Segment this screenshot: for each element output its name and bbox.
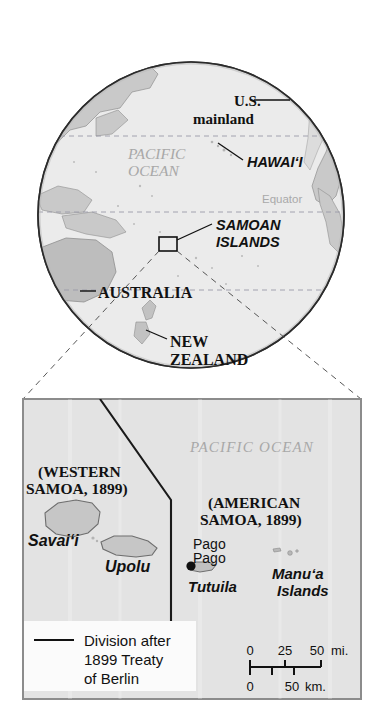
scale-km-tick-50: 50 (285, 679, 299, 694)
islet-manono (96, 540, 98, 542)
hawaii-label: HAWAI‘I (247, 154, 304, 170)
pacific-ocean-label-line1: PACIFIC (127, 145, 186, 162)
scale-mi-unit: mi. (331, 643, 348, 658)
western-samoa-label-line1: (WESTERN (38, 463, 121, 481)
manua-islands-label-line1: Manu‘a (272, 565, 324, 582)
map-figure: PACIFIC OCEAN Equator U.S. mainland HAWA… (0, 0, 382, 720)
scale-mi-tick-25: 25 (278, 643, 292, 658)
scale-km-unit: km. (305, 679, 326, 694)
us-mainland-label-line1: U.S. (234, 93, 261, 109)
australia-label: AUSTRALIA (98, 284, 193, 301)
samoan-islands-label-line1: SAMOAN (216, 217, 281, 233)
us-mainland-label-line2: mainland (193, 111, 255, 127)
samoan-islands-label-line2: ISLANDS (216, 234, 280, 250)
savaii-label: Savai‘i (28, 532, 79, 549)
inset-pacific-ocean-label: PACIFIC OCEAN (189, 439, 314, 455)
pacific-ocean-label-line2: OCEAN (128, 162, 180, 179)
scale-km-tick-0: 0 (246, 679, 253, 694)
legend-label-line2: 1899 Treaty (84, 651, 164, 668)
scale-mi-tick-0: 0 (246, 643, 253, 658)
american-samoa-label-line2: SAMOA, 1899) (200, 511, 302, 529)
islet-apolima (91, 536, 94, 539)
map-canvas: PACIFIC OCEAN Equator U.S. mainland HAWA… (0, 0, 382, 720)
scale-mi-tick-50: 50 (310, 643, 324, 658)
pago-pago-label-line2: Pago (193, 550, 226, 566)
legend: Division after 1899 Treaty of Berlin (24, 621, 196, 691)
new-zealand-label-line1: NEW (170, 333, 208, 350)
equator-label: Equator (262, 193, 302, 205)
manua-islands-label-line2: Islands (277, 582, 329, 599)
inset-map: PACIFIC OCEAN (WESTERN SAMOA, 1899) (AME… (23, 399, 361, 699)
upolu-label: Upolu (105, 558, 151, 575)
new-zealand-label-line2: ZEALAND (170, 351, 248, 368)
western-samoa-label-line2: SAMOA, 1899) (26, 480, 128, 498)
legend-label-line1: Division after (84, 632, 171, 649)
legend-label-line3: of Berlin (84, 670, 139, 687)
american-samoa-label-line1: (AMERICAN (208, 494, 300, 512)
tutuila-label: Tutuila (188, 578, 237, 595)
